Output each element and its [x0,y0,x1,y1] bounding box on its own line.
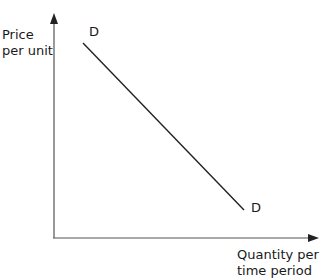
curve-label-bottom: D [251,199,261,216]
y-axis-arrow-icon [50,13,58,24]
x-axis-arrow-icon [308,234,319,242]
curve-label-top: D [89,23,99,40]
y-axis-label-line1: Price [2,26,34,43]
y-axis-label-line2: per unit [2,42,53,59]
demand-curve [83,43,244,210]
x-axis-label-line2: time period [237,262,312,278]
x-axis-label-line1: Quantity per [237,246,319,263]
